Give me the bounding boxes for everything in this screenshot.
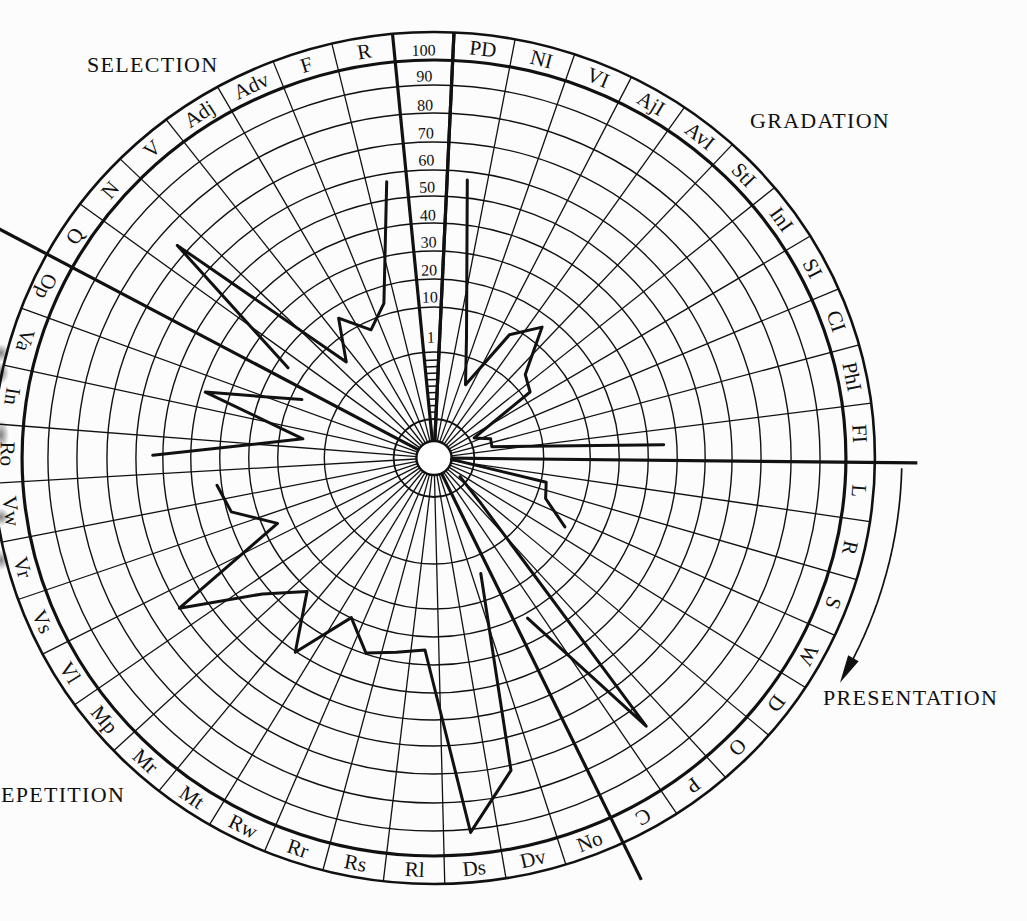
category-label: S	[820, 593, 847, 612]
category-label: PD	[468, 35, 497, 62]
section-title-repetition: REPETITION	[0, 782, 125, 807]
grid-radial-line	[0, 459, 416, 483]
center-circle	[416, 441, 451, 475]
category-label: Va	[10, 326, 40, 355]
category-label: Vr	[9, 554, 38, 581]
radial-tick-label: 90	[416, 67, 432, 84]
grid-radial-line	[451, 463, 857, 580]
trace-presentation	[452, 459, 565, 527]
radial-tick-label: 1	[427, 328, 435, 345]
arrowhead-icon	[840, 655, 859, 682]
section-divider-gradation	[435, 32, 454, 441]
category-label: AvI	[680, 117, 719, 155]
radial-tick-label: 20	[421, 261, 437, 278]
category-label: In	[0, 386, 26, 407]
category-label: AjI	[633, 86, 669, 121]
grid-radial-line	[75, 468, 420, 705]
radial-tick-label: 100	[411, 41, 435, 59]
category-label: Adv	[230, 67, 273, 104]
category-label: Vw	[0, 494, 25, 528]
section-title-gradation: GRADATION	[750, 108, 890, 133]
category-label: Mt	[175, 780, 209, 814]
trace-presentation	[460, 477, 646, 727]
section-title-selection: SELECTION	[87, 52, 218, 77]
grid-radial-line	[437, 39, 515, 441]
category-label: StI	[727, 158, 761, 192]
category-label: PhI	[837, 360, 866, 393]
grid-radial-line	[444, 107, 684, 444]
radial-tick-label: 70	[418, 124, 434, 141]
category-label: Mp	[86, 701, 123, 739]
category-label: Rl	[404, 857, 425, 882]
grid-radial-line	[218, 87, 426, 443]
grid-radial-line	[447, 469, 768, 735]
category-label: InI	[765, 202, 799, 236]
section-title-presentation: PRESENTATION	[823, 685, 998, 710]
section-divider-selection	[0, 209, 419, 450]
grid-radial-line	[434, 475, 444, 884]
category-label: F	[297, 52, 315, 78]
category-label: Dv	[518, 844, 549, 873]
category-label: R	[837, 538, 863, 557]
radial-tick-label: 10	[422, 288, 438, 305]
radial-tick-label: 50	[419, 178, 435, 195]
trace-gradation	[466, 180, 664, 447]
grid-radial-line	[440, 54, 575, 442]
polar-chart: PDNIVIAjIAvIStIInISICIPhIFILRSWDOPCNoDvD…	[0, 0, 1027, 921]
grid-radial-line	[323, 474, 430, 870]
category-label: L	[847, 484, 872, 499]
radial-tick-label: 30	[420, 233, 436, 250]
category-label: NI	[528, 45, 556, 74]
radial-tick-label: 40	[420, 206, 436, 223]
category-label: Ro	[0, 441, 20, 466]
data-traces	[153, 180, 664, 833]
radial-scale-labels: 1009080706050403020101	[411, 41, 438, 345]
grid-radial-line	[446, 144, 733, 445]
category-label: R	[355, 39, 373, 65]
trace-repetition	[179, 485, 511, 832]
radial-tick-label: 60	[418, 151, 434, 168]
category-label: FI	[847, 424, 872, 444]
clockwise-arrow-icon	[840, 468, 902, 682]
grid-radial-line	[383, 475, 432, 881]
category-label: Ds	[461, 855, 486, 881]
grid-radial-line	[451, 461, 870, 522]
center-hub	[416, 441, 451, 475]
category-label: Adj	[180, 95, 220, 132]
category-label: Mr	[128, 744, 163, 779]
category-label: Rs	[342, 849, 368, 877]
grid-radial-line	[444, 472, 677, 813]
radial-tick-label: 80	[417, 96, 433, 113]
category-label: P	[681, 772, 705, 798]
category-label: Rw	[225, 809, 263, 844]
